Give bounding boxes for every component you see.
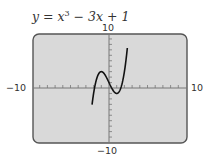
graph-screen (0, 0, 210, 160)
